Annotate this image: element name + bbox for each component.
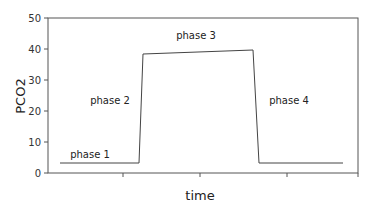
phase-2-label: phase 2 xyxy=(90,95,130,106)
ytick-50: 50 xyxy=(28,13,41,24)
x-axis-ticks xyxy=(123,173,358,177)
phase-3-label: phase 3 xyxy=(176,30,216,41)
ytick-40: 40 xyxy=(28,44,41,55)
pco2-curve xyxy=(60,50,343,163)
x-axis-title: time xyxy=(185,188,214,203)
ytick-10: 10 xyxy=(28,137,41,148)
y-axis-tick-labels: 0 10 20 30 40 50 xyxy=(28,13,41,179)
ytick-30: 30 xyxy=(28,75,41,86)
ytick-0: 0 xyxy=(35,168,41,179)
phase-1-label: phase 1 xyxy=(70,149,110,160)
y-axis-ticks xyxy=(44,18,48,173)
y-axis-title: PCO2 xyxy=(13,78,28,113)
capnogram-chart: 0 10 20 30 40 50 phase 1 phase 2 phase 3… xyxy=(0,0,373,215)
phase-4-label: phase 4 xyxy=(269,95,309,106)
ytick-20: 20 xyxy=(28,106,41,117)
